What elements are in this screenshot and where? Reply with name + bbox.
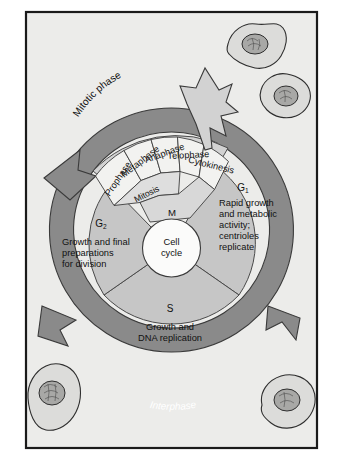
- center-circle-group: Cell cycle: [143, 219, 201, 277]
- s-letter: S: [167, 303, 174, 314]
- cell-illustration-top-right-lower: [260, 74, 310, 118]
- g1-line-3: activity;: [219, 220, 250, 230]
- cell-nucleus: [274, 389, 300, 411]
- center-label-line2: cycle: [161, 248, 182, 258]
- cell-nucleus: [274, 86, 298, 106]
- s-line-2: DNA replication: [138, 333, 202, 343]
- g1-line-1: Rapid growth: [219, 198, 274, 208]
- cell-nucleus: [242, 34, 268, 54]
- g1-line-2: and metabolic: [219, 209, 277, 219]
- m-phase-label: M: [168, 207, 176, 218]
- g2-line-2: preparations: [62, 248, 114, 258]
- center-label-line1: Cell: [163, 237, 179, 247]
- g2-line-1: Growth and final: [62, 237, 130, 247]
- s-line-1: Growth and: [146, 322, 194, 332]
- g1-line-4: centrioles: [219, 231, 259, 241]
- g2-line-3: for division: [62, 259, 106, 269]
- g1-subscript: 1: [245, 187, 249, 194]
- g2-subscript: 2: [103, 223, 107, 230]
- cell-cycle-figure: Interphase Mitotic phase: [0, 0, 343, 460]
- cell-cycle-diagram-svg: Interphase Mitotic phase: [0, 0, 343, 460]
- g1-line-5: replicate: [219, 242, 254, 252]
